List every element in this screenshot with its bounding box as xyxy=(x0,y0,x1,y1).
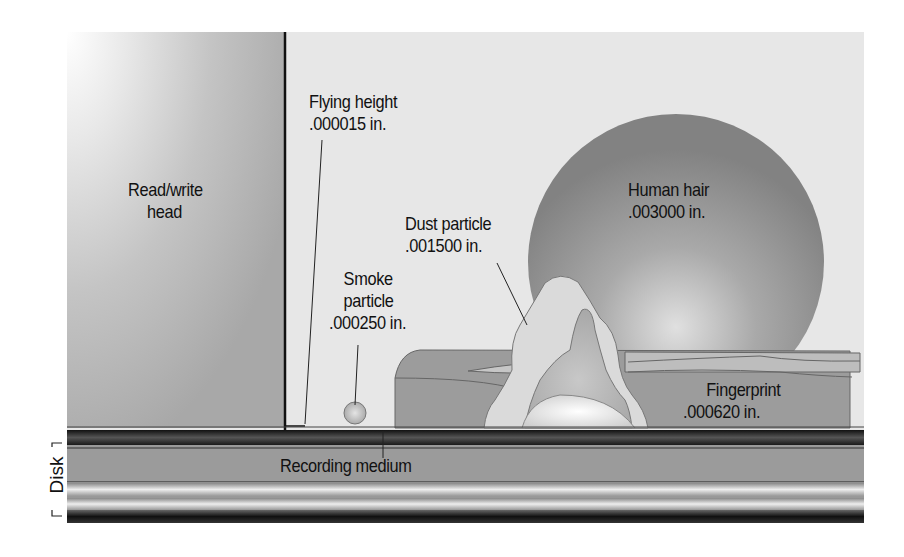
fingerprint-label: Fingerprint .000620 in. xyxy=(683,379,781,423)
dust-value: .001500 in. xyxy=(405,235,491,257)
flying-height-label: Flying height .000015 in. xyxy=(309,91,397,135)
smoke-label: Smoke particle .000250 in. xyxy=(329,268,406,334)
disk xyxy=(67,430,864,523)
hair-value: .003000 in. xyxy=(628,201,709,223)
smoke-label-line1: Smoke xyxy=(329,268,406,290)
smoke-label-line2: particle xyxy=(329,290,406,312)
recording-medium xyxy=(67,449,864,482)
disk-head-diagram: Read/write head Flying height .000015 in… xyxy=(0,0,904,557)
hair-label-line1: Human hair xyxy=(628,179,709,201)
head-label-line2: head xyxy=(128,201,203,223)
smoke-value: .000250 in. xyxy=(329,312,406,334)
smoke-particle xyxy=(344,402,366,424)
flying-height-label-line1: Flying height xyxy=(309,91,397,113)
diagram-canvas xyxy=(0,0,904,557)
read-write-head xyxy=(67,32,285,428)
fingerprint-label-line1: Fingerprint xyxy=(683,379,781,401)
disk-label: Disk xyxy=(37,455,77,495)
fingerprint-value: .000620 in. xyxy=(683,401,781,423)
head-label: Read/write head xyxy=(128,179,203,223)
dust-label-line1: Dust particle xyxy=(405,213,491,235)
flying-height-value: .000015 in. xyxy=(309,113,397,135)
recording-medium-label: Recording medium xyxy=(280,455,412,477)
dust-label: Dust particle .001500 in. xyxy=(405,213,491,257)
hair-label: Human hair .003000 in. xyxy=(628,179,709,223)
head-label-line1: Read/write xyxy=(128,179,203,201)
